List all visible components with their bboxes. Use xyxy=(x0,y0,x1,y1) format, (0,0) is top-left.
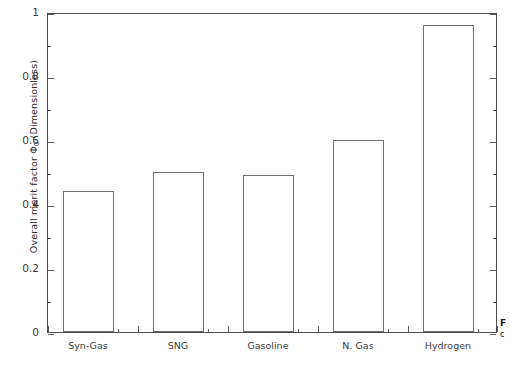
y-tick-major xyxy=(490,14,496,15)
x-tick-major xyxy=(138,326,139,332)
y-tick-major xyxy=(490,270,496,271)
bar xyxy=(243,175,294,332)
y-tick-minor xyxy=(48,46,51,47)
figure-caption-fragment: F c xyxy=(500,318,510,340)
y-tick-major xyxy=(48,334,54,335)
figure-bar-chart: Overall merit factor Φ0 (Dimensionless) … xyxy=(0,0,510,372)
x-tick-major xyxy=(318,326,319,332)
plot-area xyxy=(47,13,497,333)
bar xyxy=(333,140,384,332)
y-tick-major xyxy=(490,206,496,207)
y-tick-major xyxy=(490,78,496,79)
y-tick-major xyxy=(490,334,496,335)
y-tick-major xyxy=(48,270,54,271)
y-tick-minor xyxy=(48,174,51,175)
y-tick-label: 0 xyxy=(0,326,39,338)
y-tick-minor xyxy=(493,110,496,111)
y-tick-minor xyxy=(493,238,496,239)
x-tick-minor xyxy=(478,329,479,332)
y-tick-label: 0.6 xyxy=(0,134,39,146)
x-tick-minor xyxy=(118,329,119,332)
caption-line-1: F xyxy=(500,318,510,329)
y-tick-label: 0.8 xyxy=(0,70,39,82)
y-tick-major xyxy=(48,142,54,143)
y-tick-minor xyxy=(493,46,496,47)
caption-line-2: c xyxy=(500,329,510,340)
y-tick-major xyxy=(48,206,54,207)
x-tick-minor xyxy=(208,329,209,332)
bar xyxy=(153,172,204,332)
y-tick-major xyxy=(48,14,54,15)
y-tick-minor xyxy=(493,174,496,175)
y-tick-minor xyxy=(48,110,51,111)
y-tick-minor xyxy=(48,302,51,303)
y-axis-title: Overall merit factor Φ0 (Dimensionless) xyxy=(28,27,41,287)
y-tick-minor xyxy=(493,302,496,303)
x-tick-minor xyxy=(298,329,299,332)
y-tick-major xyxy=(48,78,54,79)
bar xyxy=(63,191,114,332)
y-tick-label: 1 xyxy=(0,6,39,18)
y-tick-major xyxy=(490,142,496,143)
y-tick-label: 0.2 xyxy=(0,262,39,274)
x-tick-major xyxy=(497,326,498,332)
y-tick-minor xyxy=(48,238,51,239)
x-tick-major xyxy=(48,326,49,332)
x-tick-minor xyxy=(388,329,389,332)
x-tick-major xyxy=(408,326,409,332)
x-tick-label: Hydrogen xyxy=(388,340,508,351)
y-tick-label: 0.4 xyxy=(0,198,39,210)
bar xyxy=(423,25,474,332)
x-tick-major xyxy=(228,326,229,332)
